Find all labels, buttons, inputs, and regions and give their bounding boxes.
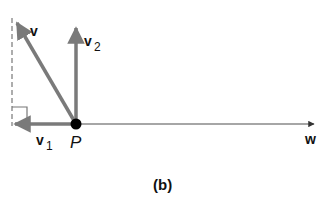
right-angle-marker [12, 107, 27, 124]
caption: (b) [153, 176, 172, 193]
label-p: P [70, 133, 82, 152]
label-v1-subscript: 1 [46, 139, 53, 153]
label-v2-subscript: 2 [94, 40, 101, 54]
point-p-dot [71, 119, 82, 130]
label-v1: v [36, 132, 44, 148]
label-w: w [304, 131, 316, 147]
vector-v [17, 23, 76, 124]
label-v2: v [84, 33, 92, 49]
vector-projection-diagram: v v 2 v 1 P w (b) [0, 0, 331, 205]
label-v: v [30, 23, 38, 39]
